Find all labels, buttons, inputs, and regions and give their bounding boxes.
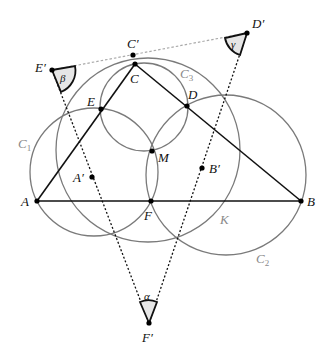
label-beta: β [59, 72, 66, 84]
point-labels: A B C D E F M A′ B′ C′ D′ E′ F′ [20, 16, 315, 345]
label-c-prime: C′ [127, 36, 139, 51]
label-circle-c2: C2 [256, 251, 269, 268]
label-d: D [187, 87, 198, 102]
point-b [298, 198, 303, 203]
point-d-prime [244, 30, 249, 35]
label-a-prime: A′ [72, 170, 84, 185]
label-m: M [157, 150, 170, 165]
point-a-prime [89, 174, 94, 179]
label-c: C [130, 71, 139, 86]
point-f [148, 198, 153, 203]
circle-c2 [146, 95, 306, 255]
label-e: E [86, 94, 95, 109]
label-circle-k: K [219, 212, 230, 227]
point-f-prime [146, 320, 151, 325]
label-alpha: α [144, 290, 150, 302]
label-b: B [307, 194, 315, 209]
label-f-prime: F′ [141, 330, 153, 345]
label-d-prime: D′ [251, 16, 264, 31]
label-f: F [143, 208, 153, 223]
point-e [98, 106, 103, 111]
label-b-prime: B′ [209, 161, 220, 176]
geometry-figure: A B C D E F M A′ B′ C′ D′ E′ F′ C1 C2 C3… [0, 0, 328, 359]
angle-gamma-marker [225, 33, 247, 55]
point-a [34, 198, 39, 203]
circle-labels: C1 C2 C3 K [18, 66, 269, 268]
side-ac [37, 64, 135, 201]
side-bc [135, 64, 301, 201]
point-e-prime [49, 67, 54, 72]
point-b-prime [199, 165, 204, 170]
label-a: A [20, 194, 29, 209]
label-circle-c1: C1 [18, 136, 31, 153]
point-c-prime [130, 52, 135, 57]
point-m [149, 148, 154, 153]
dotted-line-d-prime-f-prime [149, 33, 247, 323]
circle-c3 [100, 63, 188, 151]
dotted-line-e-prime-d-prime [52, 33, 247, 70]
label-gamma: γ [231, 38, 236, 50]
angle-alpha-marker [140, 300, 157, 323]
label-e-prime: E′ [34, 60, 46, 75]
circle-c1 [30, 108, 158, 236]
point-d [184, 103, 189, 108]
point-c [132, 61, 137, 66]
